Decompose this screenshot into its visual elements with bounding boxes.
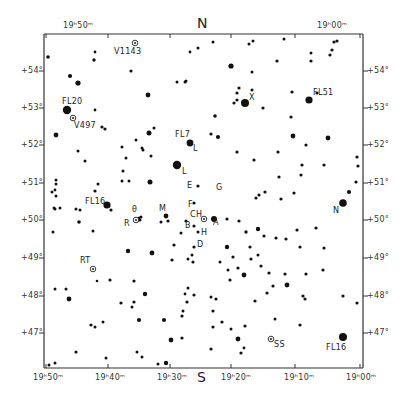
star-dot bbox=[355, 301, 358, 304]
star-dot bbox=[241, 99, 249, 107]
star-dot bbox=[213, 114, 217, 118]
star-dot bbox=[54, 288, 57, 291]
star-dot bbox=[211, 325, 214, 328]
star-dot bbox=[225, 217, 228, 220]
star-dot bbox=[132, 300, 135, 303]
star-dot bbox=[274, 318, 277, 321]
star-dot bbox=[254, 196, 257, 199]
star-dot bbox=[235, 91, 238, 94]
star-dot bbox=[97, 183, 100, 186]
star-dot bbox=[137, 318, 141, 322]
star-dot bbox=[243, 324, 246, 327]
star-dot bbox=[263, 190, 266, 193]
star-dot bbox=[96, 280, 99, 283]
star-dot bbox=[283, 272, 286, 275]
star-dot bbox=[212, 41, 215, 44]
star-dot bbox=[121, 180, 124, 183]
dec-label-right-53: +53° bbox=[367, 104, 389, 112]
star-dot bbox=[187, 258, 190, 261]
variable-star-center bbox=[92, 268, 94, 270]
star-dot bbox=[103, 127, 106, 130]
star-dot bbox=[157, 363, 160, 366]
star-dot bbox=[150, 251, 155, 256]
star-dot bbox=[244, 230, 247, 233]
label-d: D bbox=[197, 241, 203, 249]
star-dot bbox=[77, 220, 81, 224]
star-dot bbox=[219, 261, 222, 264]
ra-label-top-left: 19ʰ50ᵐ bbox=[63, 22, 93, 30]
label-fl20: FL20 bbox=[62, 98, 82, 106]
star-dot bbox=[314, 226, 317, 229]
star-dot bbox=[354, 180, 357, 183]
star-dot bbox=[303, 297, 306, 300]
star-dot bbox=[100, 125, 103, 128]
label-fl51: FL51 bbox=[313, 89, 333, 97]
star-dot bbox=[242, 273, 247, 278]
star-dot bbox=[55, 195, 58, 198]
dec-label-right-48: +48° bbox=[367, 292, 389, 300]
dec-label-right-47: +47° bbox=[367, 329, 389, 337]
star-dot bbox=[248, 43, 251, 46]
north-label: N bbox=[197, 16, 208, 30]
star-dot bbox=[92, 58, 95, 61]
star-dot bbox=[276, 150, 279, 153]
label-ch: CH bbox=[190, 211, 202, 219]
star-dot bbox=[265, 291, 268, 294]
label-fl16-left: FL16 bbox=[85, 198, 105, 206]
dec-label-right-49: +49° bbox=[367, 254, 389, 262]
star-dot bbox=[164, 361, 168, 365]
star-dot bbox=[75, 80, 80, 85]
star-dot bbox=[210, 296, 213, 299]
star-dot bbox=[89, 323, 92, 326]
star-dot bbox=[227, 269, 230, 272]
star-dot bbox=[209, 132, 212, 135]
star-dot bbox=[339, 333, 347, 341]
star-dot bbox=[322, 163, 325, 166]
star-dot bbox=[94, 109, 97, 112]
star-dot bbox=[192, 224, 195, 227]
star-dot bbox=[209, 347, 212, 350]
star-dot bbox=[153, 127, 156, 130]
star-dot bbox=[129, 69, 132, 72]
star-dot bbox=[93, 189, 96, 192]
star-dot bbox=[341, 294, 344, 297]
star-dot bbox=[94, 326, 97, 329]
star-dot bbox=[253, 299, 256, 302]
star-dot bbox=[46, 55, 50, 59]
dec-label-left-51: +51° bbox=[21, 179, 43, 187]
star-dot bbox=[335, 39, 338, 42]
star-dot bbox=[84, 160, 87, 163]
ra-label-bottom-1940: 19ʰ40ᵐ bbox=[95, 374, 125, 382]
star-dot bbox=[299, 173, 302, 176]
star-dot bbox=[298, 245, 301, 248]
star-dot bbox=[189, 51, 192, 54]
star-dot bbox=[332, 40, 335, 43]
star-dot bbox=[125, 157, 128, 160]
star-dot bbox=[232, 101, 235, 104]
star-dot bbox=[160, 221, 163, 224]
star-dot bbox=[197, 47, 200, 50]
label-h: H bbox=[201, 229, 207, 237]
star-dot bbox=[310, 52, 313, 55]
label-n: N bbox=[333, 207, 339, 215]
star-dot bbox=[121, 146, 124, 149]
star-dot bbox=[143, 292, 147, 296]
star-dot bbox=[180, 232, 183, 235]
star-dot bbox=[74, 350, 77, 353]
star-dot bbox=[309, 59, 312, 62]
star-dot bbox=[256, 227, 260, 231]
star-dot bbox=[235, 98, 238, 101]
star-dot bbox=[228, 63, 233, 68]
star-dot bbox=[141, 356, 144, 359]
star-dot bbox=[128, 180, 131, 183]
star-dot bbox=[326, 136, 331, 141]
ra-label-bottom-1920: 19ʰ20ᵐ bbox=[221, 374, 251, 382]
label-e: E bbox=[187, 182, 192, 190]
star-dot bbox=[105, 357, 108, 360]
star-dot bbox=[248, 245, 251, 248]
star-dot bbox=[147, 131, 152, 136]
star-dot bbox=[251, 71, 254, 74]
star-dot bbox=[220, 320, 223, 323]
star-dot bbox=[75, 208, 78, 211]
star-dot bbox=[63, 106, 71, 114]
